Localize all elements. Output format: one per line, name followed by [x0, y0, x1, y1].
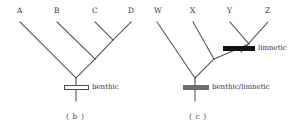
tip-label-Z: Z — [265, 7, 270, 15]
branch-internal-xyz — [195, 59, 214, 78]
tip-label-W: W — [154, 7, 162, 15]
tip-label-C: C — [92, 7, 98, 15]
panel-b-caption: ( b ) — [66, 113, 84, 121]
panel-c-caption: ( c ) — [189, 113, 207, 121]
branch-B — [57, 22, 95, 59]
limnetic-bar — [223, 46, 255, 51]
panel-c: W X Y Z limnetic benthic/limnetic ( c ) — [147, 0, 295, 128]
branch-W — [157, 22, 195, 78]
panel-b: A B C D benthic ( b ) — [0, 0, 148, 128]
tip-label-B: B — [54, 7, 60, 15]
tip-label-A: A — [17, 7, 23, 15]
benthic-bar — [64, 85, 89, 90]
branch-D — [113, 22, 131, 40]
branch-C — [95, 22, 113, 40]
tip-label-D: D — [128, 7, 134, 15]
cladogram-figure: A B C D benthic ( b ) — [0, 0, 295, 128]
panel-b-tree-lines — [0, 0, 148, 128]
branch-Y — [230, 22, 249, 44]
panel-c-tree-lines — [147, 0, 295, 128]
branch-internal-bcd — [76, 59, 95, 78]
benthic-bar-label: benthic — [92, 84, 119, 91]
branch-internal-cd — [95, 40, 113, 59]
branch-A — [20, 22, 76, 78]
limnetic-bar-label: limnetic — [258, 45, 287, 52]
benthic-limnetic-bar-label: benthic/limnetic — [212, 84, 270, 91]
tip-label-X: X — [190, 7, 196, 15]
benthic-limnetic-bar — [183, 85, 209, 90]
tip-label-Y: Y — [227, 7, 232, 15]
branch-X — [193, 22, 214, 59]
